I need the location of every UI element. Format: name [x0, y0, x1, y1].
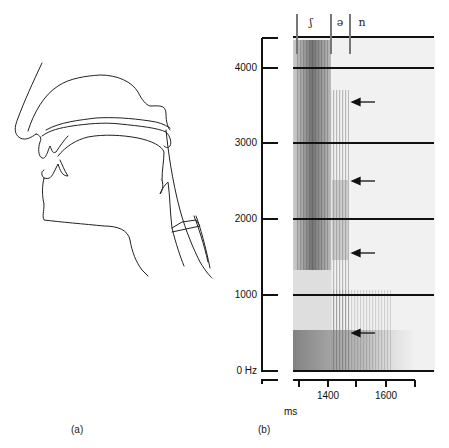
x-tick-1400: 1400 — [308, 390, 348, 401]
x-axis-unit: ms — [284, 406, 297, 417]
x-tick-1600: 1600 — [366, 390, 406, 401]
x-axis — [262, 380, 415, 387]
segment-label-n: n — [354, 16, 370, 29]
y-tick-3000: 3000 — [217, 137, 257, 148]
y-tick-0hz: 0 Hz — [217, 365, 257, 376]
panel-b-label: (b) — [258, 424, 270, 435]
segment-label-sh: ʃ — [303, 16, 319, 29]
y-tick-1000: 1000 — [217, 289, 257, 300]
y-tick-4000: 4000 — [217, 62, 257, 73]
segment-label-schwa: ə — [332, 16, 348, 29]
y-tick-2000: 2000 — [217, 213, 257, 224]
